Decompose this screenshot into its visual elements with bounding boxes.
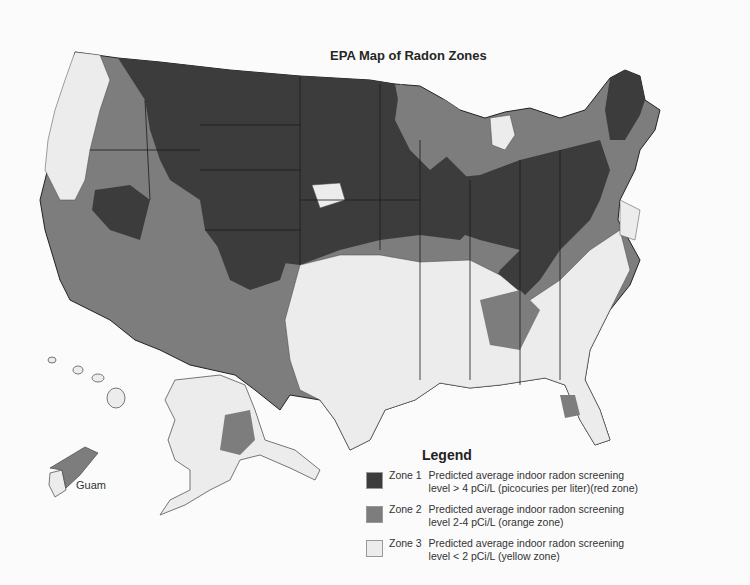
zone3-label: Zone 3	[389, 537, 429, 550]
zone3-desc-line2: level < 2 pCi/L (yellow zone)	[429, 550, 666, 563]
zone2-swatch	[366, 506, 383, 523]
legend: Legend Zone 1 Predicted average indoor r…	[366, 447, 666, 571]
zone1-swatch	[366, 472, 383, 489]
guam-label: Guam	[76, 479, 106, 491]
zone2-desc-line2: level 2-4 pCi/L (orange zone)	[429, 516, 666, 529]
zone3-desc-line1: Predicted average indoor radon screening	[429, 537, 666, 550]
zone1-desc-line1: Predicted average indoor radon screening	[429, 469, 666, 482]
hawaii-inset	[48, 357, 125, 408]
map-title: EPA Map of Radon Zones	[330, 48, 487, 63]
zone2-label: Zone 2	[389, 503, 429, 516]
zone3-description: Predicted average indoor radon screening…	[429, 537, 666, 563]
legend-row-zone3: Zone 3 Predicted average indoor radon sc…	[366, 537, 666, 563]
legend-row-zone1: Zone 1 Predicted average indoor radon sc…	[366, 469, 666, 495]
zone3-swatch	[366, 540, 383, 557]
zone3-mid-atlantic	[620, 200, 640, 240]
zone1-description: Predicted average indoor radon screening…	[429, 469, 666, 495]
legend-row-zone2: Zone 2 Predicted average indoor radon sc…	[366, 503, 666, 529]
zone2-description: Predicted average indoor radon screening…	[429, 503, 666, 529]
legend-title: Legend	[422, 447, 666, 463]
zone2-desc-line1: Predicted average indoor radon screening	[429, 503, 666, 516]
zone1-desc-line2: level > 4 pCi/L (picocuries per liter)(r…	[429, 482, 666, 495]
zone1-label: Zone 1	[389, 469, 429, 482]
